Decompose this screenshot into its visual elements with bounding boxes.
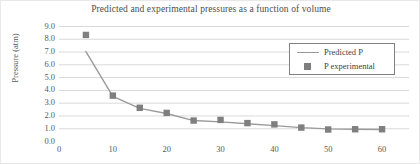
chart-legend: Predicted P P experimental [289, 43, 395, 75]
data-point-marker [83, 32, 89, 38]
data-point-marker [352, 126, 358, 132]
y-tick-label: 7.0 [31, 47, 55, 56]
data-point-marker [298, 124, 304, 130]
y-tick-label: 8.0 [31, 34, 55, 43]
x-tick-label: 10 [98, 145, 128, 154]
y-axis-title: Pressure (atm) [10, 18, 20, 98]
data-point-marker [163, 110, 169, 116]
data-point-marker [137, 105, 143, 111]
y-tick-label: 1.0 [31, 124, 55, 133]
y-tick-label: 2.0 [31, 111, 55, 120]
x-tick-label: 50 [313, 145, 343, 154]
chart-container: Predicted and experimental pressures as … [0, 0, 420, 164]
line-swatch-icon [297, 52, 319, 53]
data-point-marker [244, 120, 250, 126]
data-point-marker [379, 126, 385, 132]
x-tick-label: 60 [367, 145, 397, 154]
data-point-marker [271, 121, 277, 127]
legend-item-experimental: P experimental [290, 60, 396, 74]
y-tick-label: 3.0 [31, 98, 55, 107]
legend-label: P experimental [324, 61, 375, 72]
y-tick-label: 5.0 [31, 73, 55, 82]
y-tick-label: 9.0 [31, 22, 55, 31]
data-point-marker [217, 117, 223, 123]
y-tick-label: 0.0 [31, 137, 55, 146]
y-tick-label: 6.0 [31, 60, 55, 69]
legend-label: Predicted P [324, 47, 363, 58]
x-tick-label: 40 [259, 145, 289, 154]
data-point-marker [325, 126, 331, 132]
data-point-marker [190, 117, 196, 123]
x-tick-label: 20 [152, 145, 182, 154]
x-axis-tick-labels: 0102030405060 [1, 145, 420, 159]
legend-item-predicted: Predicted P [290, 46, 396, 60]
chart-title: Predicted and experimental pressures as … [1, 4, 420, 14]
x-tick-label: 0 [44, 145, 74, 154]
y-axis-tick-labels: 0.01.02.03.04.05.06.07.08.09.0 [29, 1, 55, 164]
y-tick-label: 4.0 [31, 85, 55, 94]
x-tick-label: 30 [206, 145, 236, 154]
square-marker-swatch-icon [304, 63, 311, 70]
data-point-marker [110, 92, 116, 98]
